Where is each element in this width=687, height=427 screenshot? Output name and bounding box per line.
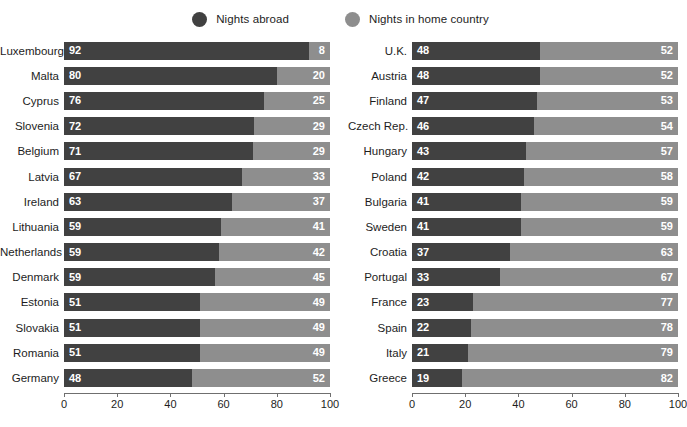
bar-value-nights-in-home-country: 20	[313, 70, 325, 81]
legend-dot-icon	[345, 12, 360, 27]
stacked-bar: 5945	[64, 268, 330, 286]
bar-value-nights-abroad: 41	[417, 196, 429, 207]
bar-row-label: Netherlands	[0, 246, 64, 258]
bar-segment-nights-in-home-country: 29	[254, 117, 330, 135]
chart-legend: Nights abroad Nights in home country	[0, 7, 681, 31]
bar-row: Malta8020	[0, 63, 341, 88]
bar-segment-nights-abroad: 37	[412, 243, 510, 261]
bar-row-label: Slovakia	[0, 322, 64, 334]
bar-row: Portugal3367	[348, 265, 681, 290]
bar-row-label: Finland	[348, 95, 412, 107]
bar-row-label: Poland	[348, 171, 412, 183]
bar-row-label: Denmark	[0, 271, 64, 283]
stacked-bar: 7625	[64, 92, 330, 110]
axis-tick	[572, 393, 573, 397]
axis-tick	[277, 393, 278, 397]
stacked-bar: 5942	[64, 243, 330, 261]
bar-row-label: Greece	[348, 372, 412, 384]
bar-segment-nights-abroad: 42	[412, 168, 524, 186]
axis-tick-label: 80	[271, 398, 283, 410]
legend-item-nights-abroad: Nights abroad	[192, 12, 289, 27]
stacked-bar: 4852	[64, 369, 330, 387]
bar-value-nights-in-home-country: 52	[661, 70, 673, 81]
stacked-bar: 4258	[412, 168, 678, 186]
bar-row: Germany4852	[0, 365, 341, 390]
bar-value-nights-abroad: 41	[417, 221, 429, 232]
bar-row-label: Estonia	[0, 296, 64, 308]
axis-tick	[465, 393, 466, 397]
chart-panel-left: Luxembourg928Malta8020Cyprus7625Slovenia…	[0, 38, 341, 415]
bar-segment-nights-abroad: 23	[412, 293, 473, 311]
axis-tick	[678, 393, 679, 397]
bar-segment-nights-in-home-country: 52	[192, 369, 330, 387]
bar-value-nights-abroad: 59	[69, 221, 81, 232]
stacked-bar: 4852	[412, 42, 678, 60]
bar-value-nights-abroad: 59	[69, 272, 81, 283]
bar-value-nights-in-home-country: 52	[313, 373, 325, 384]
bar-value-nights-abroad: 51	[69, 347, 81, 358]
bar-segment-nights-abroad: 92	[64, 42, 309, 60]
bar-segment-nights-in-home-country: 49	[200, 319, 330, 337]
axis-tick-label: 0	[409, 398, 415, 410]
bar-segment-nights-in-home-country: 54	[534, 117, 678, 135]
bar-rows: U.K.4852Austria4852Finland4753Czech Rep.…	[348, 38, 681, 391]
bar-segment-nights-in-home-country: 58	[524, 168, 678, 186]
stacked-bar: 2377	[412, 293, 678, 311]
bar-row-label: Croatia	[348, 246, 412, 258]
bar-segment-nights-in-home-country: 52	[540, 67, 678, 85]
legend-item-label: Nights in home country	[369, 13, 489, 25]
bar-value-nights-abroad: 48	[69, 373, 81, 384]
stacked-bar: 8020	[64, 67, 330, 85]
bar-segment-nights-abroad: 41	[412, 193, 521, 211]
bar-row-label: Romania	[0, 347, 64, 359]
bar-segment-nights-abroad: 59	[64, 218, 221, 236]
legend-item-nights-in-home-country: Nights in home country	[345, 12, 489, 27]
bar-row: Bulgaria4159	[348, 189, 681, 214]
stacked-bar: 3367	[412, 268, 678, 286]
bar-segment-nights-in-home-country: 8	[309, 42, 330, 60]
bar-segment-nights-in-home-country: 45	[215, 268, 330, 286]
bar-segment-nights-abroad: 76	[64, 92, 264, 110]
bar-segment-nights-in-home-country: 77	[473, 293, 678, 311]
axis-line	[412, 393, 678, 394]
bar-segment-nights-in-home-country: 52	[540, 42, 678, 60]
x-axis: 020406080100	[0, 393, 341, 415]
stacked-bar: 928	[64, 42, 330, 60]
bar-segment-nights-in-home-country: 67	[500, 268, 678, 286]
bar-value-nights-in-home-country: 67	[661, 272, 673, 283]
axis-tick-label: 0	[61, 398, 67, 410]
axis-tick-label: 80	[619, 398, 631, 410]
bar-value-nights-abroad: 51	[69, 322, 81, 333]
axis-tick-label: 100	[669, 398, 687, 410]
bar-segment-nights-abroad: 59	[64, 243, 219, 261]
bar-row: Slovenia7229	[0, 114, 341, 139]
bar-value-nights-abroad: 48	[417, 45, 429, 56]
bar-row: Italy2179	[348, 340, 681, 365]
axis-tick	[330, 393, 331, 397]
bar-row: Belgium7129	[0, 139, 341, 164]
bar-value-nights-abroad: 43	[417, 146, 429, 157]
axis-tick-label: 60	[217, 398, 229, 410]
bar-row: France2377	[348, 290, 681, 315]
bar-segment-nights-abroad: 41	[412, 218, 521, 236]
bar-value-nights-in-home-country: 79	[661, 347, 673, 358]
bar-value-nights-in-home-country: 58	[661, 171, 673, 182]
bar-segment-nights-in-home-country: 57	[526, 142, 678, 160]
bar-segment-nights-in-home-country: 25	[264, 92, 330, 110]
bar-value-nights-in-home-country: 54	[661, 121, 673, 132]
bar-segment-nights-abroad: 59	[64, 268, 215, 286]
legend-dot-icon	[192, 12, 207, 27]
bar-value-nights-abroad: 23	[417, 297, 429, 308]
bar-row-label: Spain	[348, 322, 412, 334]
bar-segment-nights-abroad: 80	[64, 67, 277, 85]
axis-tick	[170, 393, 171, 397]
bar-row-label: Latvia	[0, 171, 64, 183]
bar-segment-nights-abroad: 48	[412, 42, 540, 60]
bar-segment-nights-in-home-country: 37	[232, 193, 330, 211]
bar-value-nights-abroad: 47	[417, 95, 429, 106]
bar-row-label: Belgium	[0, 145, 64, 157]
bar-row: Estonia5149	[0, 290, 341, 315]
bar-row: Greece1982	[348, 365, 681, 390]
axis-tick	[224, 393, 225, 397]
bar-value-nights-abroad: 92	[69, 45, 81, 56]
